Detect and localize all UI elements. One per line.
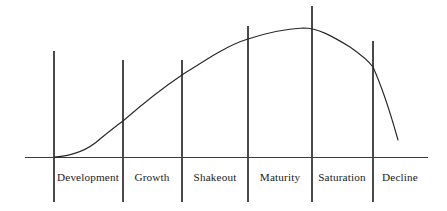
industry-life-cycle-diagram: Development Growth Shakeout Maturity Sat… (0, 0, 447, 211)
stage-label-shakeout: Shakeout (194, 171, 238, 183)
stage-label-development: Development (57, 171, 120, 183)
stage-label-growth: Growth (134, 171, 169, 183)
stage-label-decline: Decline (382, 171, 418, 183)
stage-label-saturation: Saturation (318, 171, 366, 183)
stage-label-maturity: Maturity (260, 171, 301, 183)
lifecycle-chart-canvas: Development Growth Shakeout Maturity Sat… (0, 0, 447, 211)
life-cycle-curve (54, 28, 398, 157)
